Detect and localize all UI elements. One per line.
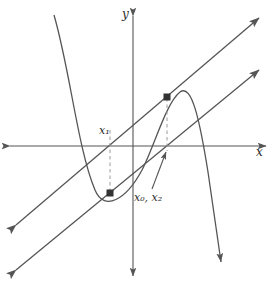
newton-method-diagram: y x x₁ x₀, x₂ — [0, 0, 276, 288]
point-lower-intersection — [107, 190, 114, 197]
point-upper-intersection — [164, 94, 171, 101]
label-x0-x2: x₀, x₂ — [134, 192, 162, 203]
cubic-curve — [54, 15, 221, 262]
y-axis-label: y — [122, 8, 129, 20]
tangent-line-lower — [16, 70, 259, 270]
x-axis-label: x — [256, 146, 263, 158]
label-x1: x₁ — [99, 125, 110, 136]
diagram-canvas — [0, 0, 276, 288]
x0x2-pointer-arrow — [152, 152, 166, 189]
